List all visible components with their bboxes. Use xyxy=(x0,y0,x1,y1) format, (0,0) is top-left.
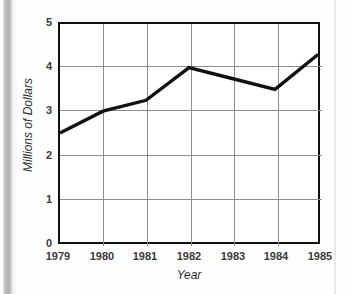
data-series-line xyxy=(60,24,318,242)
y-tick-label-3: 3 xyxy=(12,105,52,116)
plot-area xyxy=(58,22,320,244)
x-axis-title: Year xyxy=(58,268,320,282)
chart-figure: Millions of Dollars 5 4 3 2 1 0 1979 198… xyxy=(0,0,347,294)
x-tick-label-1985: 1985 xyxy=(292,250,347,262)
y-tick-label-4: 4 xyxy=(12,61,52,72)
y-tick-label-1: 1 xyxy=(12,194,52,205)
y-tick-label-2: 2 xyxy=(12,150,52,161)
y-tick-label-0: 0 xyxy=(12,238,52,249)
y-tick-label-5: 5 xyxy=(12,17,52,28)
